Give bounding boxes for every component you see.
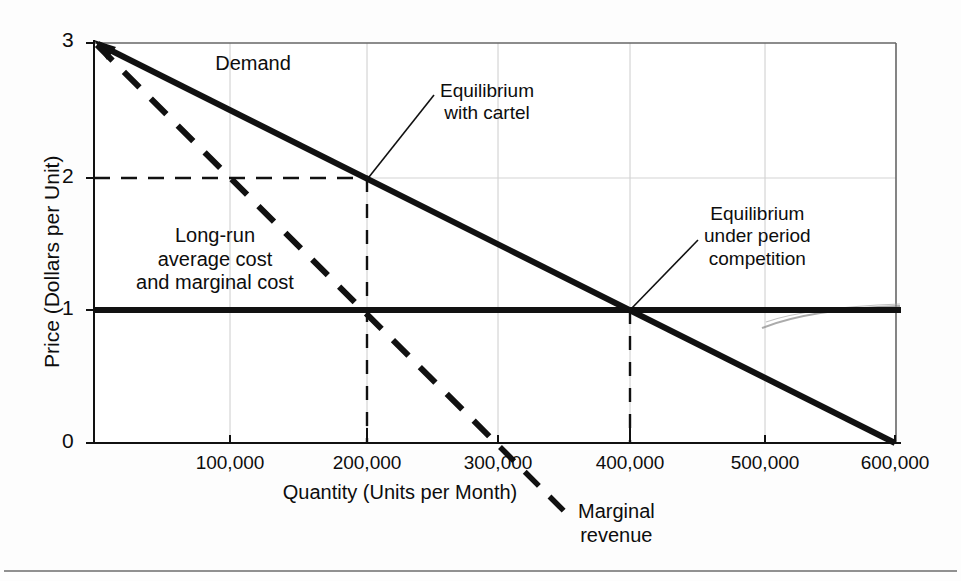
cost-curve-label-line-3: and marginal cost	[110, 271, 320, 295]
x-tick-label-600000: 600,000	[861, 452, 930, 474]
y-axis-title: Price (Dollars per Unit)	[40, 156, 65, 368]
cost-curve-label-line-2: average cost	[110, 248, 320, 272]
demand-label: Demand	[215, 52, 291, 76]
competition-callout-line-3: competition	[704, 248, 811, 270]
y-axis-ticks	[86, 43, 94, 443]
y-tick-label-3: 3	[62, 28, 74, 53]
marginal-revenue-label-line-2: revenue	[578, 524, 655, 548]
x-tick-label-300000: 300,000	[464, 452, 533, 474]
cost-curve-label: Long-run average cost and marginal cost	[110, 224, 320, 295]
cartel-callout-line-1: Equilibrium	[440, 80, 534, 102]
cost-curve-label-line-1: Long-run	[110, 224, 320, 248]
x-axis-title: Quantity (Units per Month)	[283, 481, 518, 505]
competition-callout-line-1: Equilibrium	[704, 203, 811, 225]
marginal-revenue-label: Marginal revenue	[578, 500, 655, 547]
x-tick-label-200000: 200,000	[333, 452, 402, 474]
cartel-equilibrium-point	[365, 176, 370, 181]
competition-callout-line-2: under period	[704, 225, 811, 247]
competition-equilibrium-point	[628, 308, 633, 313]
x-tick-label-400000: 400,000	[596, 452, 665, 474]
economics-figure: 3 2 1 0 Price (Dollars per Unit) 100,000…	[0, 0, 961, 581]
competition-equilibrium-callout: Equilibrium under period competition	[704, 203, 811, 270]
cartel-callout-line-2: with cartel	[440, 102, 534, 124]
marginal-revenue-label-line-1: Marginal	[578, 500, 655, 524]
x-tick-label-100000: 100,000	[196, 452, 265, 474]
x-tick-label-500000: 500,000	[731, 452, 800, 474]
y-tick-label-0: 0	[62, 429, 74, 454]
cartel-equilibrium-callout: Equilibrium with cartel	[440, 80, 534, 125]
